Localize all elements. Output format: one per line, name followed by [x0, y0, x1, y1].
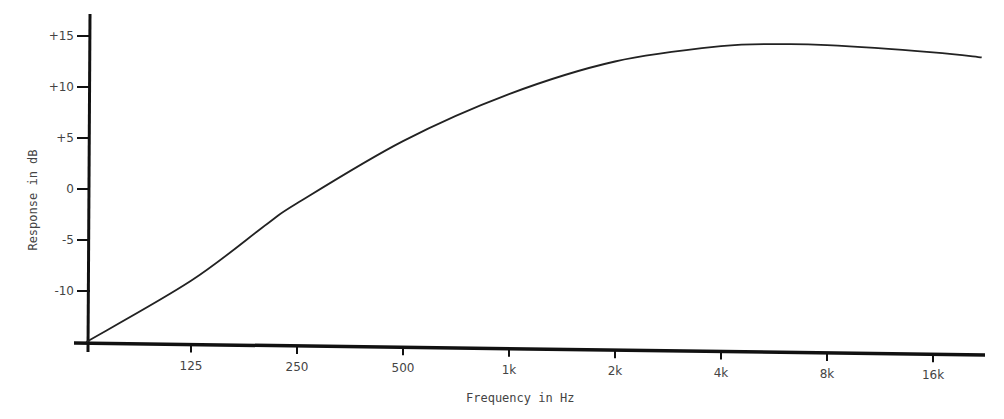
y-axis-title: Response in dB — [26, 149, 40, 250]
y-tick-label: +5 — [56, 131, 74, 145]
y-tick-label: +10 — [49, 80, 74, 94]
x-tick-label: 8k — [820, 367, 835, 381]
y-tick-label: -5 — [62, 233, 74, 247]
x-tick-label: 1k — [502, 363, 517, 377]
y-axis-line — [88, 14, 90, 352]
x-tick-label: 250 — [286, 360, 309, 374]
x-axis-title: Frequency in Hz — [466, 391, 574, 405]
x-tick-label: 2k — [608, 364, 623, 378]
frequency-response-chart: +15+10+50-5-10 1252505001k2k4k8k16k Freq… — [0, 0, 1004, 419]
x-tick-label: 4k — [714, 366, 729, 380]
y-tick-label: +15 — [49, 29, 74, 43]
x-tick-label: 16k — [922, 368, 944, 382]
x-tick-label: 125 — [180, 359, 203, 373]
response-curve — [86, 44, 982, 342]
x-axis-line — [74, 343, 985, 355]
y-tick-label: 0 — [66, 182, 74, 196]
x-tick-label: 500 — [392, 361, 415, 375]
y-axis-ticks: +15+10+50-5-10 — [49, 29, 90, 298]
y-tick-label: -10 — [54, 284, 74, 298]
